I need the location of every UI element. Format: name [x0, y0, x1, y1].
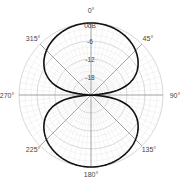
grid-spoke-minor [92, 101, 98, 167]
angle-label-180: 180° [84, 171, 99, 178]
angle-label-0: 0° [88, 7, 95, 14]
radial-tick-label: -18 [85, 74, 95, 81]
grid-spoke-minor [85, 101, 91, 167]
polar-chart: 0°45°90°135°180°225°270°315°0dB-6-12-18 [0, 0, 183, 188]
angle-label-315: 315° [26, 35, 41, 42]
angle-label-225: 225° [26, 146, 41, 153]
polar-labels: 0°45°90°135°180°225°270°315°0dB-6-12-18 [0, 7, 180, 178]
angle-label-45: 45° [143, 35, 154, 42]
angle-label-270: 270° [0, 92, 14, 99]
radial-tick-label: -6 [87, 38, 93, 45]
angle-label-135: 135° [142, 146, 157, 153]
radial-tick-label: -12 [85, 56, 95, 63]
angle-label-90: 90° [170, 92, 181, 99]
radial-tick-label: 0dB [84, 22, 96, 29]
